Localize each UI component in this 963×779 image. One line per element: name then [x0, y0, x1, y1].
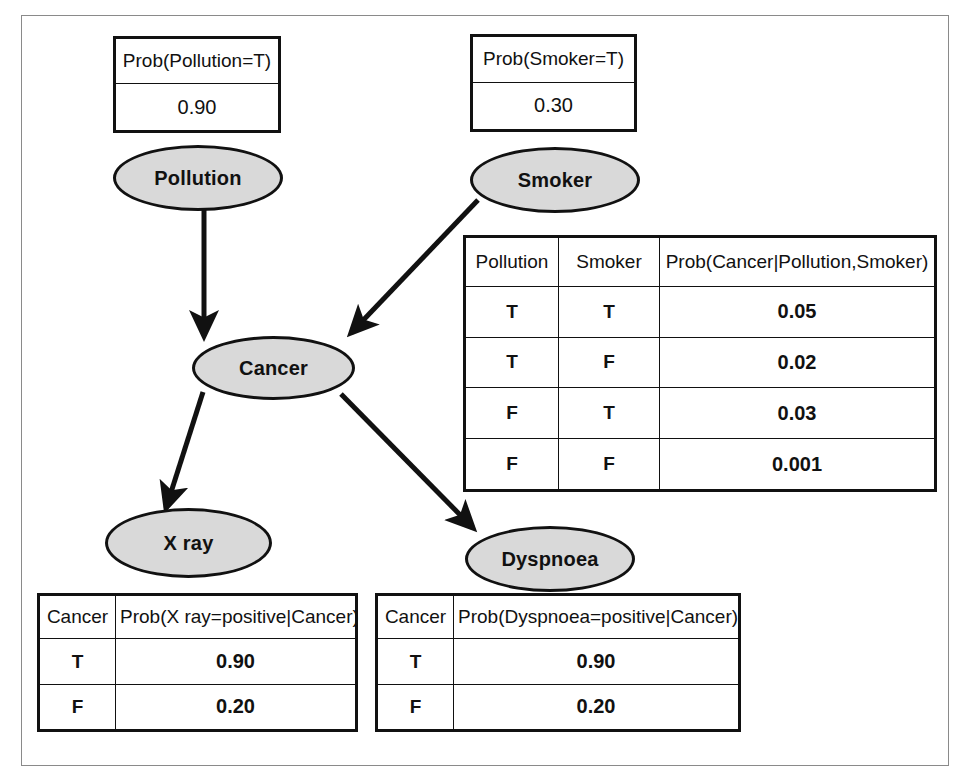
dyspnoea-cpt-r0-cancer: T — [378, 639, 454, 684]
node-dyspnoea-label: Dyspnoea — [501, 548, 598, 571]
cancer-cpt-r2-smoker: T — [559, 388, 660, 439]
cancer-cpt-r0-pollution: T — [466, 286, 559, 337]
dyspnoea-cpt-header-prob: Prob(Dyspnoea=positive|Cancer) — [454, 596, 739, 639]
table-row: T 0.90 — [378, 639, 739, 684]
node-pollution-label: Pollution — [154, 167, 241, 190]
table-row: F T 0.03 — [466, 388, 935, 439]
dyspnoea-cpt-header-cancer: Cancer — [378, 596, 454, 639]
cancer-cpt-header-pollution: Pollution — [466, 238, 559, 287]
table-row: F 0.20 — [40, 684, 356, 729]
cancer-cpt-table: Pollution Smoker Prob(Cancer|Pollution,S… — [463, 235, 937, 492]
smoker-prior-header: Prob(Smoker=T) — [473, 37, 635, 83]
table-row: T T 0.05 — [466, 286, 935, 337]
node-smoker-label: Smoker — [518, 169, 593, 192]
xray-cpt-r1-value: 0.20 — [116, 684, 356, 729]
pollution-prior-table: Prob(Pollution=T) 0.90 — [113, 36, 281, 133]
node-cancer[interactable]: Cancer — [192, 336, 355, 400]
smoker-prior-table: Prob(Smoker=T) 0.30 — [470, 34, 637, 132]
xray-cpt-table: Cancer Prob(X ray=positive|Cancer) T 0.9… — [37, 593, 358, 732]
node-xray-label: X ray — [164, 532, 214, 555]
cancer-cpt-r3-pollution: F — [466, 439, 559, 490]
pollution-prior-value: 0.90 — [116, 84, 279, 131]
xray-cpt-r0-cancer: T — [40, 639, 116, 684]
node-pollution[interactable]: Pollution — [113, 145, 283, 211]
xray-cpt-header-cancer: Cancer — [40, 596, 116, 639]
table-row: F F 0.001 — [466, 439, 935, 490]
xray-cpt-header-prob: Prob(X ray=positive|Cancer) — [116, 596, 356, 639]
smoker-prior-value: 0.30 — [473, 82, 635, 130]
cancer-cpt-r1-value: 0.02 — [660, 337, 935, 388]
diagram-page: Prob(Pollution=T) 0.90 Prob(Smoker=T) 0.… — [0, 0, 963, 779]
node-smoker[interactable]: Smoker — [470, 147, 640, 213]
xray-cpt-r0-value: 0.90 — [116, 639, 356, 684]
table-header-row: Pollution Smoker Prob(Cancer|Pollution,S… — [466, 238, 935, 287]
cancer-cpt-header-smoker: Smoker — [559, 238, 660, 287]
node-cancer-label: Cancer — [239, 357, 308, 380]
cancer-cpt-r1-pollution: T — [466, 337, 559, 388]
table-header-row: Cancer Prob(X ray=positive|Cancer) — [40, 596, 356, 639]
cancer-cpt-header-prob: Prob(Cancer|Pollution,Smoker) — [660, 238, 935, 287]
table-row: T F 0.02 — [466, 337, 935, 388]
table-row: F 0.20 — [378, 684, 739, 729]
dyspnoea-cpt-r1-cancer: F — [378, 684, 454, 729]
xray-cpt-r1-cancer: F — [40, 684, 116, 729]
cancer-cpt-r3-value: 0.001 — [660, 439, 935, 490]
node-dyspnoea[interactable]: Dyspnoea — [465, 526, 635, 592]
dyspnoea-cpt-r0-value: 0.90 — [454, 639, 739, 684]
table-row: T 0.90 — [40, 639, 356, 684]
dyspnoea-cpt-r1-value: 0.20 — [454, 684, 739, 729]
pollution-prior-header: Prob(Pollution=T) — [116, 39, 279, 84]
dyspnoea-cpt-table: Cancer Prob(Dyspnoea=positive|Cancer) T … — [375, 593, 741, 732]
table-header-row: Cancer Prob(Dyspnoea=positive|Cancer) — [378, 596, 739, 639]
node-xray[interactable]: X ray — [105, 508, 272, 578]
cancer-cpt-r1-smoker: F — [559, 337, 660, 388]
cancer-cpt-r0-value: 0.05 — [660, 286, 935, 337]
cancer-cpt-r2-pollution: F — [466, 388, 559, 439]
cancer-cpt-r2-value: 0.03 — [660, 388, 935, 439]
cancer-cpt-r3-smoker: F — [559, 439, 660, 490]
cancer-cpt-r0-smoker: T — [559, 286, 660, 337]
